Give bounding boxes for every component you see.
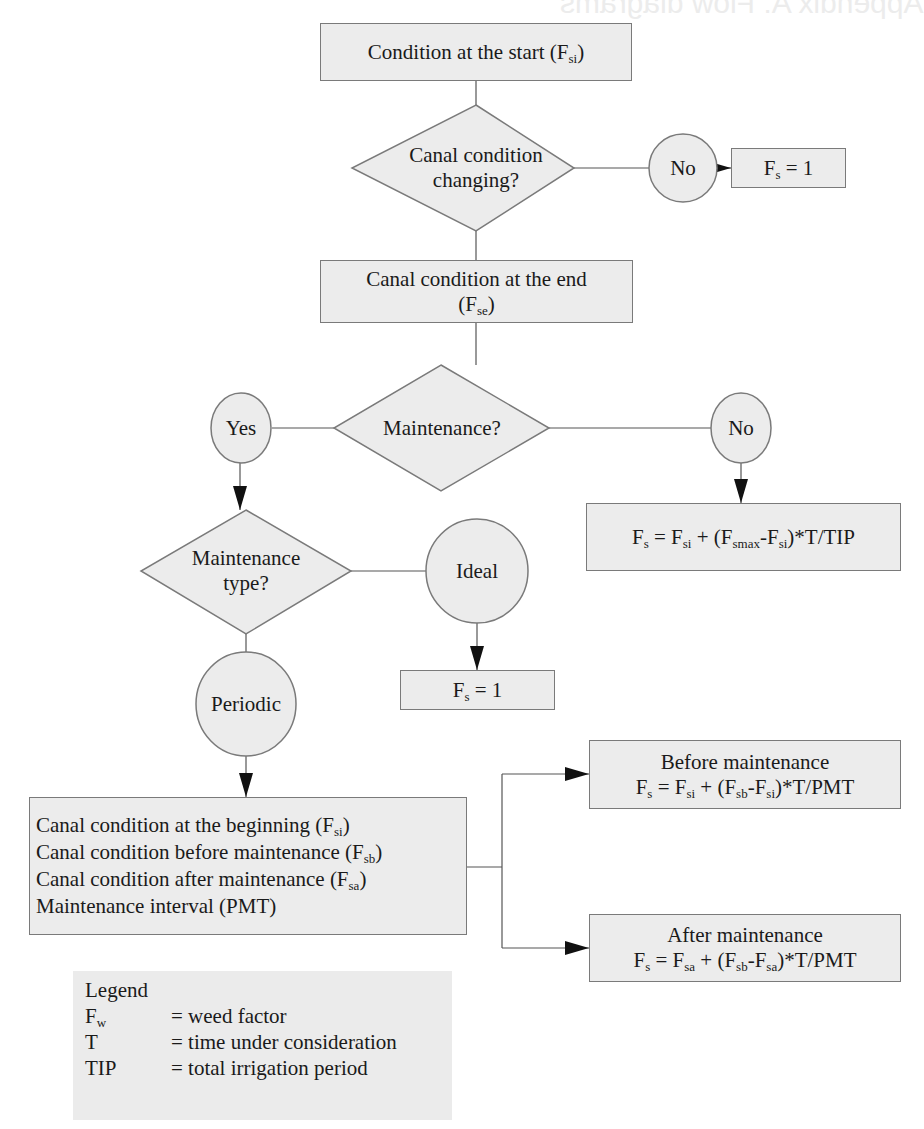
legend-item: TIP = total irrigation period	[85, 1055, 452, 1081]
no-changing-label: No	[670, 156, 696, 181]
after-maintenance-box: After maintenance Fs = Fsa + (Fsb-Fsa)*T…	[589, 914, 901, 982]
ideal-label: Ideal	[456, 559, 498, 584]
fs-one-ideal-f: F	[453, 678, 465, 702]
decision-maintenance: Maintenance?	[354, 410, 530, 446]
yes-label: Yes	[226, 416, 257, 441]
end-condition-close: )	[488, 292, 495, 316]
end-condition-box: Canal condition at the end (Fse)	[320, 260, 633, 323]
decision-changing: Canal condition changing?	[372, 130, 580, 206]
formula-no-maintenance: Fs = Fsi + (Fsmax-Fsi)*T/TIP	[632, 525, 855, 550]
decision-changing-line2: changing?	[433, 168, 519, 193]
start-close: )	[577, 40, 584, 64]
start-sub: si	[568, 51, 577, 66]
after-formula: Fs = Fsa + (Fsb-Fsa)*T/PMT	[633, 948, 856, 973]
legend: Legend Fw = weed factor T = time under c…	[73, 971, 452, 1120]
decision-changing-line1: Canal condition	[409, 143, 543, 168]
inputs-line: Canal condition at the beginning (Fsi)	[36, 812, 350, 839]
inputs-line: Canal condition after maintenance (Fsa)	[36, 866, 366, 893]
legend-item: T = time under consideration	[85, 1029, 452, 1055]
before-formula: Fs = Fsi + (Fsb-Fsi)*T/PMT	[636, 775, 855, 800]
end-condition-line1: Canal condition at the end	[366, 267, 586, 292]
no-maintenance-circle: No	[711, 393, 771, 463]
formula-no-maintenance-box: Fs = Fsi + (Fsmax-Fsi)*T/TIP	[586, 503, 901, 571]
no-maintenance-label: No	[728, 416, 754, 441]
start-condition-box: Condition at the start (Fsi)	[320, 23, 632, 81]
end-condition-open: (F	[458, 292, 477, 316]
ideal-circle: Ideal	[426, 519, 528, 623]
before-maintenance-box: Before maintenance Fs = Fsi + (Fsb-Fsi)*…	[589, 740, 901, 809]
periodic-circle: Periodic	[196, 652, 296, 756]
decision-type: Maintenance type?	[160, 535, 332, 607]
fs-one-ideal-box: Fs = 1	[400, 670, 555, 710]
fs-one-ideal-rest: = 1	[469, 678, 502, 702]
yes-circle: Yes	[211, 393, 271, 463]
decision-maintenance-label: Maintenance?	[383, 416, 501, 441]
no-changing-circle: No	[649, 134, 717, 202]
decision-type-line2: type?	[223, 571, 268, 596]
periodic-label: Periodic	[211, 692, 281, 717]
inputs-line: Canal condition before maintenance (Fsb)	[36, 839, 382, 866]
legend-item: Fw = weed factor	[85, 1003, 452, 1029]
fs-one-top-box: Fs = 1	[731, 148, 846, 188]
after-title: After maintenance	[667, 923, 823, 948]
fs-one-top-f: F	[764, 156, 776, 180]
start-label: Condition at the start (F	[368, 40, 569, 64]
inputs-box: Canal condition at the beginning (Fsi) C…	[29, 797, 467, 935]
decision-type-line1: Maintenance	[192, 546, 300, 571]
before-title: Before maintenance	[661, 750, 830, 775]
inputs-line: Maintenance interval (PMT)	[36, 893, 276, 920]
end-condition-sub: se	[477, 303, 488, 318]
legend-title: Legend	[85, 977, 452, 1003]
fs-one-top-rest: = 1	[780, 156, 813, 180]
